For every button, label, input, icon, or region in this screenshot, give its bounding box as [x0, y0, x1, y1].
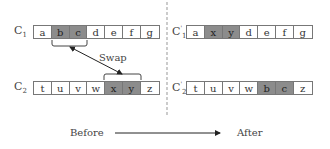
c1-bracket — [52, 40, 87, 46]
swap-arrow — [70, 47, 122, 74]
diagram-overlay — [0, 0, 330, 149]
c2-bracket — [104, 74, 141, 80]
